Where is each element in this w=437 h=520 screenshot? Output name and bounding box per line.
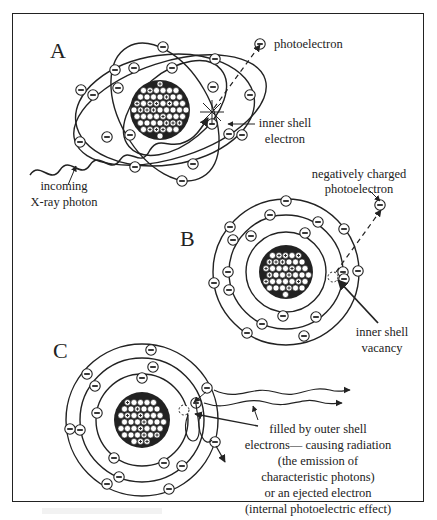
electron-icon	[109, 453, 119, 463]
electron-icon	[177, 176, 187, 186]
electron-icon	[228, 235, 238, 245]
electron-icon	[125, 130, 135, 140]
footer-artifact	[42, 508, 162, 514]
vacancy-label-1: inner shell	[356, 325, 409, 339]
electron-icon	[146, 345, 156, 355]
nucleus-c	[114, 392, 170, 448]
filled-label-1: filled by outer shell	[269, 422, 367, 436]
panel-c: C filled by outer shell electrons— causi…	[53, 338, 392, 516]
electron-icon	[246, 231, 256, 241]
vacancy-b	[328, 272, 338, 282]
electron-icon	[159, 458, 169, 468]
vacancy-c	[179, 405, 189, 415]
electron-icon	[353, 266, 363, 276]
electron-icon	[188, 159, 198, 169]
electron-icon	[177, 461, 187, 471]
electron-icon	[223, 267, 233, 277]
electron-icon	[148, 362, 158, 372]
incoming-xray-label-2: X-ray photon	[31, 195, 99, 209]
filled-label-5: or an ejected electron	[264, 486, 372, 500]
emitted-photon-1	[214, 389, 350, 394]
electron-icon	[311, 312, 321, 322]
electron-icon	[237, 130, 247, 140]
electron-icon	[281, 196, 291, 206]
electron-icon	[65, 424, 75, 434]
filled-label-2: electrons— causing radiation	[245, 438, 392, 452]
electron-icon	[225, 222, 235, 232]
photoelectric-effect-diagram: A photoelectron inner shell electron inc…	[0, 0, 437, 520]
electron-icon	[102, 132, 112, 142]
electron-icon	[76, 85, 86, 95]
electron-icon	[375, 200, 385, 210]
filled-label-3: (the emission of	[278, 454, 359, 468]
electron-icon	[102, 479, 112, 489]
panel-label-a: A	[50, 38, 66, 63]
electron-icon	[265, 210, 275, 220]
electron-icon	[242, 328, 252, 338]
electron-icon	[75, 137, 85, 147]
panel-b: B negatively charged photoelectron inner…	[180, 167, 409, 355]
electron-icon	[167, 63, 177, 73]
filled-label-6: (internal photoelectric effect)	[245, 502, 391, 516]
nucleus-b	[259, 245, 313, 299]
electron-icon	[90, 381, 100, 391]
electron-icon	[209, 278, 219, 288]
ejected-electron-arrow	[216, 446, 225, 462]
negatively-charged-label-2: photoelectron	[325, 182, 394, 196]
electron-icon	[130, 162, 140, 172]
panel-label-b: B	[180, 226, 195, 251]
emitted-photon-2	[204, 400, 342, 405]
starburst-icon	[200, 100, 224, 124]
negatively-charged-label-1: negatively charged	[312, 167, 407, 181]
nucleus-a	[130, 80, 190, 140]
electron-icon	[75, 425, 85, 435]
electron-icon	[164, 484, 174, 494]
electron-icon	[208, 82, 218, 92]
electron-icon	[88, 90, 98, 100]
electron-icon	[299, 331, 309, 341]
electron-icon	[278, 311, 288, 321]
inner-shell-electron-label-2: electron	[265, 132, 306, 146]
electron-icon	[339, 224, 349, 234]
inner-shell-electron-label-1: inner shell	[259, 116, 312, 130]
vacancy-label-2: vacancy	[362, 341, 404, 355]
electron-icon	[255, 39, 265, 49]
photoelectron-label: photoelectron	[274, 37, 343, 51]
electron-icon	[257, 319, 267, 329]
electron-icon	[114, 472, 124, 482]
electron-icon	[245, 90, 255, 100]
incoming-xray-label-1: incoming	[40, 179, 88, 193]
electron-icon	[224, 129, 234, 139]
electron-icon	[113, 83, 123, 93]
electron-icon	[110, 65, 120, 75]
electron-icon	[137, 373, 147, 383]
electron-icon	[313, 217, 323, 227]
electron-icon	[300, 228, 310, 238]
electron-icon	[210, 437, 220, 447]
electron-icon	[158, 42, 168, 52]
electron-icon	[224, 285, 234, 295]
electron-icon	[92, 408, 102, 418]
panel-label-c: C	[53, 338, 68, 363]
filled-label-4: characteristic photons)	[261, 470, 375, 484]
photon-pointer	[253, 406, 258, 420]
electron-icon	[82, 369, 92, 379]
electron-icon	[202, 383, 212, 393]
electron-icon	[210, 54, 220, 64]
electron-icon	[129, 63, 139, 73]
